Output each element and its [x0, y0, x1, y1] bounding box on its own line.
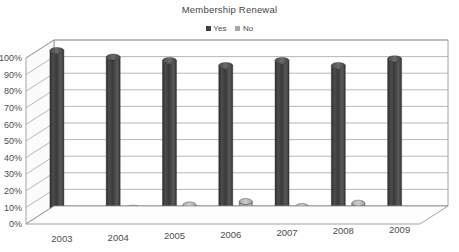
- chart-legend: Yes No: [0, 24, 459, 33]
- bar-yes-2008: [331, 62, 345, 219]
- x-axis-tick-label: 2006: [220, 229, 241, 240]
- y-axis-tick-label: 90%: [4, 70, 22, 80]
- bar-yes-2005: [162, 57, 176, 219]
- membership-renewal-chart: Membership Renewal Yes No: [0, 0, 459, 252]
- y-axis-tick-label: 20%: [4, 186, 22, 196]
- bar-yes-2009: [388, 56, 402, 220]
- bar-yes-2006: [219, 62, 233, 219]
- y-axis-tick-label: 50%: [4, 136, 22, 146]
- x-axis-tick-label: 2008: [333, 225, 354, 236]
- plot-area: 100%90%80%70%60%50%40%30%20%10%0% 200320…: [0, 36, 459, 252]
- x-axis-tick-label: 2003: [51, 233, 72, 244]
- y-axis-ticks: 100%90%80%70%60%50%40%30%20%10%0%: [0, 53, 22, 229]
- chart-floor: [26, 206, 448, 224]
- chart-walls: [26, 40, 448, 224]
- y-axis-tick-label: 80%: [4, 86, 22, 96]
- x-axis-tick-label: 2004: [108, 232, 129, 243]
- bar-yes-2003: [50, 47, 64, 219]
- bar-yes-2007: [275, 57, 289, 219]
- legend-label-no: No: [243, 24, 253, 33]
- y-axis-tick-label: 0%: [9, 219, 22, 229]
- y-axis-tick-label: 60%: [4, 120, 22, 130]
- x-axis-ticks: 2003200420052006200720082009: [51, 224, 410, 245]
- bar-yes-2004: [106, 54, 120, 219]
- legend-swatch-yes: [206, 26, 211, 31]
- chart-title: Membership Renewal: [0, 4, 459, 15]
- y-axis-tick-label: 70%: [4, 103, 22, 113]
- legend-item-yes: Yes: [206, 24, 227, 33]
- legend-label-yes: Yes: [213, 24, 226, 33]
- y-axis-tick-label: 100%: [0, 53, 22, 63]
- y-axis-tick-label: 40%: [4, 153, 22, 163]
- x-axis-tick-label: 2009: [389, 224, 410, 235]
- legend-item-no: No: [235, 24, 253, 33]
- y-axis-tick-label: 30%: [4, 169, 22, 179]
- chart-plot-svg: 100%90%80%70%60%50%40%30%20%10%0% 200320…: [0, 36, 459, 252]
- x-axis-tick-label: 2005: [164, 230, 185, 241]
- y-axis-tick-label: 10%: [4, 203, 22, 213]
- legend-swatch-no: [235, 26, 240, 31]
- x-axis-tick-label: 2007: [276, 227, 297, 238]
- chart-gridlines: [26, 40, 448, 224]
